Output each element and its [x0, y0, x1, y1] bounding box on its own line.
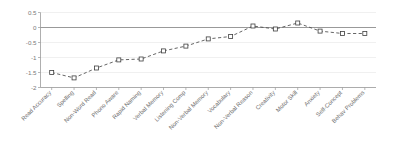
gridlines-group: [41, 13, 377, 88]
y-axis-tick-label: -0.5: [26, 39, 37, 46]
data-point-marker[interactable]: [72, 76, 76, 80]
x-axis-category-label: Read Accuracy: [20, 89, 52, 121]
x-axis-category-label: Motor Skill: [275, 89, 299, 113]
data-point-marker[interactable]: [340, 32, 344, 36]
y-axis-tick-label: 0.5: [28, 9, 37, 16]
data-point-marker[interactable]: [139, 57, 143, 61]
x-axis-category-label: Anxiety: [303, 89, 321, 107]
data-point-marker[interactable]: [363, 32, 367, 36]
y-axis-tick-label: -1.5: [26, 69, 37, 76]
data-point-marker[interactable]: [296, 21, 300, 25]
line-chart: 0.50-0.5-1-1.5-2 Read AccuracySpellingNo…: [0, 0, 394, 150]
x-axis-category-label: Non-Verbal Memory: [168, 89, 209, 130]
y-axis-tick-label: -2: [31, 84, 37, 91]
data-point-marker[interactable]: [94, 66, 98, 70]
data-point-marker[interactable]: [229, 35, 233, 39]
y-axis-tick-label: -1: [31, 54, 37, 61]
data-point-marker[interactable]: [318, 29, 322, 33]
data-point-marker[interactable]: [206, 37, 210, 41]
y-axis-tick-label: 0: [33, 24, 37, 31]
data-markers-group: [50, 21, 367, 80]
x-axis-category-label: Spelling: [56, 89, 75, 108]
x-axis-category-label: Creativity: [254, 89, 276, 111]
x-axis-category-label: Non-Verbal Reason: [213, 89, 254, 130]
data-point-marker[interactable]: [117, 58, 121, 62]
data-point-marker[interactable]: [273, 27, 277, 31]
x-axis-category-labels: Read AccuracySpellingNon-Word ReadPhono …: [20, 89, 365, 131]
chart-container: 0.50-0.5-1-1.5-2 Read AccuracySpellingNo…: [0, 0, 394, 150]
data-point-marker[interactable]: [184, 44, 188, 48]
data-point-marker[interactable]: [50, 71, 54, 75]
x-axis-group: [41, 88, 377, 91]
data-point-marker[interactable]: [162, 49, 166, 53]
y-axis-group: 0.50-0.5-1-1.5-2: [26, 9, 41, 91]
data-point-marker[interactable]: [251, 24, 255, 28]
